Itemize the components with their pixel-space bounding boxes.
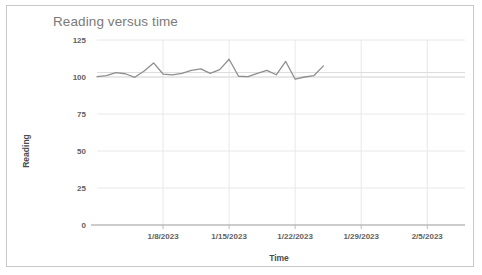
x-axis-tick-marks (163, 225, 427, 229)
x-gridlines (163, 40, 427, 225)
y-axis-tick-labels: 0255075100125 (73, 36, 87, 230)
line-chart-plot: 0255075100125 1/8/20231/15/20231/22/2023… (7, 6, 475, 268)
x-axis-tick-labels: 1/8/20231/15/20231/22/20231/29/20232/5/2… (147, 232, 443, 241)
y-axis-tick-label: 125 (73, 36, 87, 45)
x-axis-tick-label: 1/22/2023 (277, 232, 313, 241)
x-axis-tick-label: 1/29/2023 (343, 232, 379, 241)
x-axis-tick-label: 2/5/2023 (412, 232, 444, 241)
chart-card: Reading versus time 0255075100125 1/8/20… (6, 5, 474, 267)
y-axis-tick-label: 75 (77, 110, 86, 119)
y-axis-title: Reading (21, 134, 31, 168)
reference-lines (97, 73, 465, 77)
y-axis-tick-label: 50 (77, 147, 86, 156)
data-series-line (97, 59, 323, 79)
x-axis-tick-label: 1/8/2023 (147, 232, 179, 241)
x-axis-title: Time (269, 253, 289, 263)
y-axis-tick-label: 25 (77, 184, 86, 193)
y-axis-tick-label: 0 (82, 221, 87, 230)
y-axis-tick-label: 100 (73, 73, 87, 82)
x-axis-tick-label: 1/15/2023 (211, 232, 247, 241)
y-gridlines (97, 40, 465, 188)
